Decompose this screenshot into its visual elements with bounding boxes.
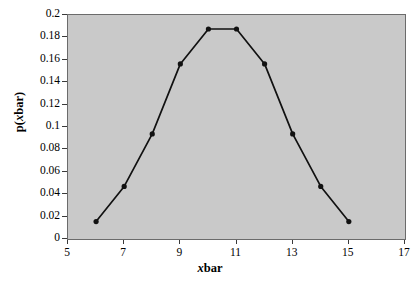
x-tick-label: 13 <box>286 247 298 259</box>
data-point-marker <box>178 61 183 66</box>
data-point-markers <box>93 26 351 224</box>
plot-svg <box>68 15 405 239</box>
data-point-marker <box>122 184 127 189</box>
y-axis-title-italic-x: x <box>12 115 26 121</box>
data-point-marker <box>150 131 155 136</box>
x-axis-title: xbar <box>0 261 420 276</box>
y-tick-label: 0 <box>8 232 60 244</box>
data-series-line <box>96 29 349 222</box>
x-tick-label: 11 <box>230 247 241 259</box>
x-tick-label: 15 <box>342 247 354 259</box>
y-tick-label: 0.04 <box>8 187 60 199</box>
x-tick-label: 17 <box>398 247 410 259</box>
data-point-marker <box>318 184 323 189</box>
y-axis-title-rest: bar) <box>12 92 26 115</box>
x-axis-title-rest: bar <box>204 261 223 275</box>
data-point-marker <box>262 61 267 66</box>
x-tick-label: 9 <box>176 247 182 259</box>
data-point-marker <box>346 219 351 224</box>
data-point-marker <box>206 26 211 31</box>
x-tick-label: 7 <box>120 247 126 259</box>
y-axis-title-prefix: p( <box>12 121 26 132</box>
y-axis-title: p(xbar) <box>12 62 27 162</box>
x-tick-label: 5 <box>64 247 70 259</box>
y-tick-label: 0.2 <box>8 8 60 20</box>
data-point-marker <box>93 219 98 224</box>
plot-area <box>67 14 406 240</box>
y-tick-label: 0.18 <box>8 31 60 43</box>
chart-figure: 00.020.040.060.080.10.120.140.160.180.2 … <box>0 0 420 283</box>
y-tick-label: 0.06 <box>8 165 60 177</box>
data-point-marker <box>290 131 295 136</box>
y-tick-label: 0.02 <box>8 210 60 222</box>
data-point-marker <box>234 26 239 31</box>
